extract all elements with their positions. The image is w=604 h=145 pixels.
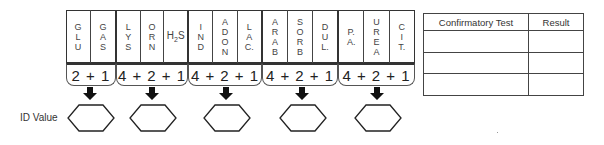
score-box-1: 2 + 1 (66, 63, 116, 86)
confirmatory-test-cell[interactable] (424, 74, 529, 96)
confirmatory-test-cell[interactable] (424, 31, 529, 53)
test-cell-lac: LAC. (237, 10, 261, 63)
test-cell-gas: GAS (90, 10, 115, 63)
result-cell[interactable] (529, 52, 584, 74)
test-cell-dul: DUL. (312, 10, 337, 63)
id-value-hexagon-4[interactable] (279, 104, 327, 132)
test-group-4: ARAB SORB DUL. 4 + 2 + 1 (262, 10, 338, 87)
test-cell-h2s: H2S (163, 10, 187, 63)
header-result: Result (529, 14, 584, 31)
result-cell[interactable] (529, 74, 584, 96)
test-cell-cit: CIT. (389, 10, 414, 63)
test-group-5: P.A. UREA CIT. 4 + 2 + 1 (338, 10, 415, 87)
id-value-hexagon-5[interactable] (354, 104, 402, 132)
score-box-4: 4 + 2 + 1 (262, 63, 338, 86)
test-cell-sorb: SORB (287, 10, 312, 63)
id-value-label: ID Value (20, 112, 58, 123)
down-arrow-icon (145, 87, 159, 100)
test-cell-ind: IND (189, 10, 212, 63)
test-cell-lys: LYS (117, 10, 140, 63)
test-group-2: LYS ORN H2S 4 + 2 + 1 (116, 10, 188, 87)
score-box-2: 4 + 2 + 1 (116, 63, 188, 86)
confirmatory-test-table: Confirmatory Test Result (423, 13, 584, 96)
test-cell-glu: GLU (66, 10, 90, 63)
down-arrow-icon (219, 87, 233, 100)
speck (497, 132, 498, 133)
down-arrow-icon (370, 87, 384, 100)
down-arrow-icon (295, 87, 309, 100)
id-value-hexagon-1[interactable] (67, 104, 115, 132)
test-cell-pa: P.A. (339, 10, 363, 63)
result-cell[interactable] (529, 31, 584, 53)
confirmatory-test-cell[interactable] (424, 52, 529, 74)
test-cell-adon: ADON (212, 10, 236, 63)
down-arrow-icon (83, 87, 97, 100)
test-cell-urea: UREA (363, 10, 388, 63)
test-cell-orn: ORN (140, 10, 164, 63)
test-group-3: IND ADON LAC. 4 + 2 + 1 (188, 10, 262, 87)
test-cell-arab: ARAB (263, 10, 287, 63)
score-box-5: 4 + 2 + 1 (338, 63, 415, 86)
id-value-hexagon-2[interactable] (129, 104, 177, 132)
id-value-hexagon-3[interactable] (203, 104, 251, 132)
test-group-1: GLU GAS 2 + 1 (66, 10, 116, 87)
score-box-3: 4 + 2 + 1 (188, 63, 262, 86)
biochemical-test-panel: GLU GAS 2 + 1 LYS ORN H2S 4 + 2 + 1 IND (66, 10, 415, 87)
header-confirmatory-test: Confirmatory Test (424, 14, 529, 31)
